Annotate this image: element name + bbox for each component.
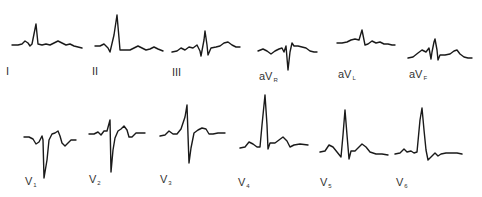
lead-label-iii: III (172, 67, 181, 78)
lead-label-subscript: F (423, 75, 427, 81)
lead-label-subscript: 4 (246, 183, 249, 189)
ecg-figure: IIIIIIaVRaVLaVFV1V2V3V4V5V6 (0, 0, 482, 197)
lead-label-subscript: 3 (168, 180, 171, 186)
lead-label-text: II (92, 65, 98, 77)
ecg-trace-avr (258, 43, 317, 70)
lead-label-avl: aVL (338, 69, 356, 81)
ecg-trace-avl (337, 30, 395, 45)
lead-label-text: V (320, 176, 327, 188)
lead-label-subscript: 1 (33, 182, 36, 188)
lead-label-v2: V2 (89, 174, 101, 186)
ecg-trace-v2 (89, 120, 145, 172)
lead-label-text: V (89, 173, 96, 185)
ecg-traces (0, 0, 482, 197)
lead-label-avf: aVF (409, 69, 427, 81)
lead-label-v1: V1 (25, 176, 37, 188)
lead-label-v6: V6 (396, 177, 408, 189)
lead-label-v3: V3 (160, 174, 172, 186)
ecg-trace-v1 (24, 131, 76, 178)
ecg-trace-v5 (320, 110, 388, 159)
ecg-trace-v4 (240, 95, 308, 149)
lead-label-v4: V4 (238, 177, 250, 189)
lead-label-text: III (172, 66, 181, 78)
lead-label-subscript: 2 (97, 180, 100, 186)
lead-label-text: I (6, 65, 9, 77)
lead-label-text: V (238, 176, 245, 188)
ecg-trace-iii (172, 31, 240, 56)
lead-label-text: aV (338, 68, 351, 80)
lead-label-ii: II (92, 66, 98, 77)
lead-label-subscript: R (273, 77, 277, 83)
ecg-trace-v6 (395, 108, 462, 160)
lead-label-subscript: 6 (404, 183, 407, 189)
ecg-trace-ii (95, 15, 163, 52)
ecg-trace-avf (408, 39, 472, 60)
lead-label-i: I (6, 66, 9, 77)
ecg-trace-v3 (160, 105, 225, 163)
lead-label-text: V (396, 176, 403, 188)
lead-label-v5: V5 (320, 177, 332, 189)
lead-label-text: aV (409, 68, 422, 80)
lead-label-text: V (160, 173, 167, 185)
lead-label-text: V (25, 175, 32, 187)
lead-label-text: aV (259, 70, 272, 82)
lead-label-subscript: L (352, 75, 355, 81)
ecg-trace-i (12, 24, 82, 48)
lead-label-avr: aVR (259, 71, 278, 83)
lead-label-subscript: 5 (328, 183, 331, 189)
